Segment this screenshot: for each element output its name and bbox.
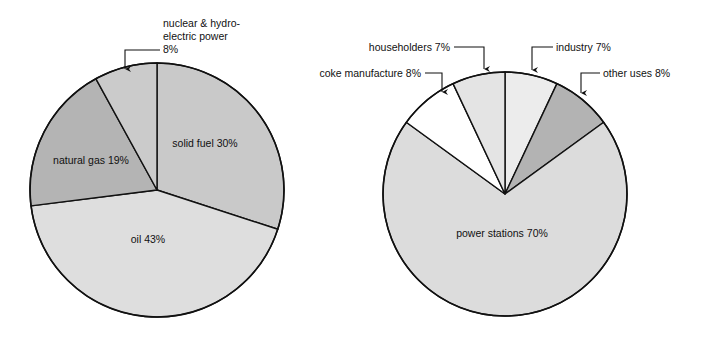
callout-label-industry: industry 7% [556,41,611,53]
pie-chart-1: solid fuel 30%oil 43%natural gas 19%nucl… [30,17,284,317]
callout-label-nuclear-hydro-electric-power: nuclear & hydro-electric power8% [163,17,241,55]
charts-group: solid fuel 30%oil 43%natural gas 19%nucl… [30,17,670,317]
callout-label-householders: householders 7% [369,41,450,53]
slice-label-natural-gas: natural gas 19% [53,154,129,166]
slice-label-solid-fuel: solid fuel 30% [172,137,237,149]
dual-pie-chart-canvas: solid fuel 30%oil 43%natural gas 19%nucl… [0,0,704,346]
leader-line-industry [532,47,553,70]
slice-label-power-stations: power stations 70% [456,227,548,239]
pie-chart-2: industry 7%other uses 8%power stations 7… [319,41,670,316]
callout-label-other-uses: other uses 8% [603,67,670,79]
pie-chart-figure: solid fuel 30%oil 43%natural gas 19%nucl… [0,0,704,346]
leader-line-other-uses [581,73,600,93]
leader-line-coke-manufacture [425,73,442,92]
slice-label-oil: oil 43% [131,233,165,245]
callout-label-coke-manufacture: coke manufacture 8% [319,67,421,79]
leader-line-householders [454,47,484,69]
